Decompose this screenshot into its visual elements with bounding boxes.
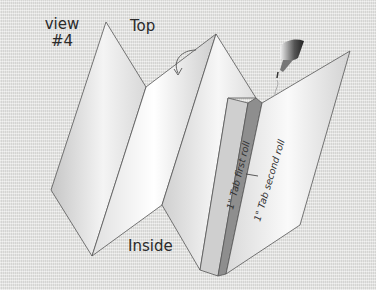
view-label-line2: #4 (34, 33, 90, 50)
inside-label: Inside (128, 238, 173, 255)
top-label: Top (130, 18, 155, 35)
view-number-label: view #4 (34, 16, 90, 50)
view-label-line1: view (34, 16, 90, 33)
